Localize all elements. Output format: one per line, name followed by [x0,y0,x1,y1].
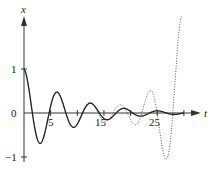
chart: x t 1 0 −1 5 15 25 [0,0,216,173]
y-tick-label-0: 0 [11,107,17,119]
y-tick-label-1: 1 [11,63,17,75]
y-tick-label-neg1: −1 [5,151,17,163]
axes [21,16,201,162]
x-tick-label-25: 25 [149,116,161,128]
x-axis-label: t [204,107,208,119]
y-axis-label: x [20,3,26,15]
x-tick-label-15: 15 [95,116,107,128]
y-axis-arrow-icon [21,16,27,26]
dotted-series-line [24,16,182,159]
x-tick-label-5: 5 [48,116,54,128]
solid-series-line [24,69,184,143]
x-axis-arrow-icon [191,110,201,116]
